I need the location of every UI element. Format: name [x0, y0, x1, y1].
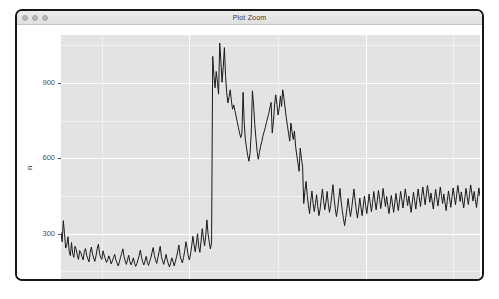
data-series-line: [61, 35, 480, 279]
y-axis-title: n: [25, 166, 34, 170]
y-tick-label: 900: [27, 79, 55, 87]
plot-surface: n date 300600900 AprJul: [17, 25, 482, 279]
x-tick-mark: [189, 279, 190, 281]
y-tick-label: 300: [27, 230, 55, 238]
plot-zoom-window: Plot Zoom n date 300600900 AprJul: [15, 9, 484, 281]
y-tick-label: 600: [27, 154, 55, 162]
window-titlebar[interactable]: Plot Zoom: [17, 11, 482, 25]
plot-panel[interactable]: [61, 35, 480, 279]
screenshot-root: Plot Zoom n date 300600900 AprJul: [0, 0, 499, 299]
window-title: Plot Zoom: [17, 13, 482, 22]
x-tick-mark: [366, 279, 367, 281]
